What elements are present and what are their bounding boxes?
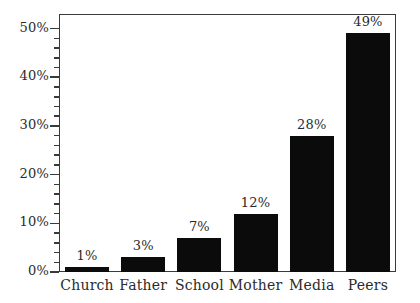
bar-media <box>290 136 334 272</box>
y-tick-label-10: 10% <box>20 214 50 229</box>
y-major-tick-0 <box>50 271 59 273</box>
y-major-tick-30 <box>50 125 59 127</box>
bar-value-mother: 12% <box>216 195 296 210</box>
y-axis-labels: 0%10%20%30%40%50% <box>0 0 49 303</box>
bar-father <box>121 257 165 272</box>
bar-school <box>177 238 221 272</box>
x-tick-label-peers: Peers <box>318 277 418 293</box>
bar-church <box>65 267 109 272</box>
y-major-tick-50 <box>50 28 59 30</box>
bar-mother <box>234 214 278 272</box>
y-tick-label-30: 30% <box>20 117 50 132</box>
y-tick-label-50: 50% <box>20 20 50 35</box>
bar-value-peers: 49% <box>328 14 408 29</box>
y-tick-label-20: 20% <box>20 166 50 181</box>
bar-peers <box>346 33 390 272</box>
bar-value-father: 3% <box>103 238 183 253</box>
y-major-tick-40 <box>50 76 59 78</box>
y-major-tick-20 <box>50 174 59 176</box>
y-major-tick-10 <box>50 223 59 225</box>
bar-value-media: 28% <box>272 117 352 132</box>
y-tick-label-40: 40% <box>20 68 50 83</box>
y-tick-label-0: 0% <box>28 263 49 278</box>
bar-value-school: 7% <box>159 219 239 234</box>
bar-chart: 0%10%20%30%40%50% 1%3%7%12%28%49% Church… <box>0 0 420 303</box>
